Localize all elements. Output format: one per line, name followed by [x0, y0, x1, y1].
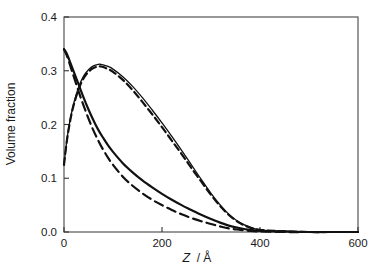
series-decaying-solid	[64, 49, 358, 232]
y-tick-label-0.2: 0.2	[41, 119, 57, 131]
y-axis-title: Volume fraction	[4, 83, 18, 166]
x-tick-label-600: 600	[348, 237, 367, 249]
x-tick-label-0: 0	[61, 237, 67, 249]
series-peaked-solid	[64, 64, 358, 232]
x-axis-title: Z / Å	[182, 248, 212, 265]
x-axis-unit: / Å	[197, 250, 212, 265]
x-tick-label-400: 400	[250, 237, 269, 249]
data-series-group	[64, 49, 358, 232]
x-axis-symbol: Z	[182, 251, 191, 265]
series-peaked-dashed	[64, 66, 358, 232]
y-tick-label-0.1: 0.1	[41, 172, 57, 184]
series-decaying-dashed	[64, 49, 358, 232]
y-tick-label-0.4: 0.4	[41, 11, 58, 23]
axis-ticks	[64, 17, 358, 232]
x-tick-label-200: 200	[152, 237, 171, 249]
volume-fraction-plot: 02004006000.00.10.20.30.4 Volume fractio…	[0, 0, 381, 278]
y-tick-label-0.0: 0.0	[41, 226, 57, 238]
axis-tick-labels: 02004006000.00.10.20.30.4	[41, 11, 368, 249]
y-tick-label-0.3: 0.3	[41, 65, 57, 77]
plot-frame	[64, 17, 358, 232]
chart-figure: 02004006000.00.10.20.30.4 Volume fractio…	[0, 0, 381, 278]
